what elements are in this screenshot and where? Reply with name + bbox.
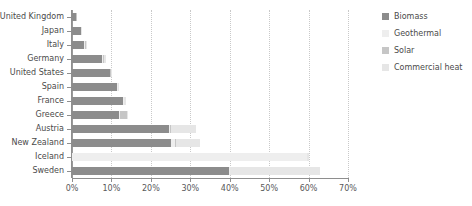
bar-france	[72, 97, 126, 105]
bar-segment-biomass	[72, 125, 169, 133]
y-tick-mark	[67, 31, 71, 32]
bar-segment-biomass	[72, 55, 102, 63]
y-tick-label-germany: Germany	[27, 55, 64, 63]
y-tick-label-france: France	[37, 97, 64, 105]
bar-segment-biomass	[72, 83, 117, 91]
x-axis-line	[72, 178, 349, 179]
bar-segment-commercial-heat	[127, 111, 129, 119]
x-tick-label: 30%	[181, 184, 199, 193]
gridline-60pct	[309, 10, 311, 178]
y-tick-mark	[67, 45, 71, 46]
x-tick-label: 60%	[300, 184, 318, 193]
bar-sweden	[72, 167, 320, 175]
bar-segment-biomass	[72, 27, 81, 35]
bar-united-states	[72, 69, 111, 77]
y-tick-label-spain: Spain	[42, 83, 64, 91]
legend-swatch-icon	[382, 30, 389, 37]
y-tick-mark	[67, 171, 71, 172]
y-tick-label-japan: Japan	[42, 27, 64, 35]
bar-segment-commercial-heat	[230, 167, 320, 175]
y-tick-mark	[67, 73, 71, 74]
x-tick-label: 50%	[260, 184, 278, 193]
x-tick-mark	[348, 178, 349, 182]
x-tick-label: 0%	[66, 184, 79, 193]
y-tick-label-iceland: Iceland	[35, 153, 64, 161]
x-tick-label: 20%	[142, 184, 160, 193]
bar-segment-biomass	[72, 111, 119, 119]
x-tick-mark	[111, 178, 112, 182]
bar-new-zealand	[72, 139, 200, 147]
bar-segment-commercial-heat	[124, 97, 126, 105]
bar-segment-biomass	[72, 139, 171, 147]
legend-item-commercial-heat[interactable]: Commercial heat	[382, 59, 472, 76]
legend-label: Biomass	[394, 12, 428, 21]
y-tick-mark	[67, 87, 71, 88]
legend-label: Solar	[394, 46, 414, 55]
legend-swatch-icon	[382, 64, 389, 71]
y-tick-mark	[67, 129, 71, 130]
bar-segment-commercial-heat	[171, 125, 196, 133]
chart-legend: BiomassGeothermalSolarCommercial heat	[382, 8, 472, 76]
y-tick-mark	[67, 143, 71, 144]
bar-segment-biomass	[72, 167, 229, 175]
bar-segment-biomass	[72, 97, 123, 105]
x-tick-label: 40%	[221, 184, 239, 193]
legend-swatch-icon	[382, 47, 389, 54]
y-tick-mark	[67, 157, 71, 158]
x-tick-mark	[309, 178, 310, 182]
plot-area	[72, 10, 348, 178]
bar-segment-solar	[120, 111, 127, 119]
bar-spain	[72, 83, 119, 91]
bar-segment-commercial-heat	[86, 41, 87, 49]
bar-segment-commercial-heat	[307, 153, 308, 161]
x-tick-mark	[230, 178, 231, 182]
chart-figure: United KingdomJapanItalyGermanyUnited St…	[0, 0, 472, 206]
bar-italy	[72, 41, 87, 49]
bar-japan	[72, 27, 82, 35]
bar-austria	[72, 125, 196, 133]
legend-label: Commercial heat	[394, 63, 462, 72]
bar-united-kingdom	[72, 13, 76, 21]
bar-iceland	[72, 153, 309, 161]
legend-item-solar[interactable]: Solar	[382, 42, 472, 59]
y-axis-line	[71, 10, 72, 178]
legend-label: Geothermal	[394, 29, 441, 38]
y-tick-label-italy: Italy	[47, 41, 64, 49]
x-tick-label: 10%	[103, 184, 121, 193]
x-tick-mark	[72, 178, 73, 182]
x-tick-mark	[190, 178, 191, 182]
y-tick-mark	[67, 17, 71, 18]
y-tick-label-united-kingdom: United Kingdom	[0, 13, 64, 21]
bar-greece	[72, 111, 128, 119]
bar-segment-biomass	[72, 41, 84, 49]
bar-segment-biomass	[72, 69, 110, 77]
y-tick-mark	[67, 59, 71, 60]
x-tick-mark	[151, 178, 152, 182]
legend-swatch-icon	[382, 13, 389, 20]
legend-item-geothermal[interactable]: Geothermal	[382, 25, 472, 42]
legend-item-biomass[interactable]: Biomass	[382, 8, 472, 25]
bar-germany	[72, 55, 106, 63]
y-tick-label-austria: Austria	[36, 125, 64, 133]
y-tick-label-new-zealand: New Zealand	[11, 139, 64, 147]
bar-segment-geothermal	[72, 153, 307, 161]
x-tick-mark	[269, 178, 270, 182]
y-tick-label-sweden: Sweden	[32, 167, 64, 175]
y-tick-label-greece: Greece	[36, 111, 64, 119]
gridline-70pct	[348, 10, 350, 178]
y-tick-mark	[67, 115, 71, 116]
y-tick-mark	[67, 101, 71, 102]
bar-segment-commercial-heat	[176, 139, 200, 147]
y-tick-label-united-states: United States	[10, 69, 64, 77]
bar-segment-commercial-heat	[111, 69, 112, 77]
x-tick-label: 70%	[339, 184, 357, 193]
bar-segment-commercial-heat	[104, 55, 106, 63]
